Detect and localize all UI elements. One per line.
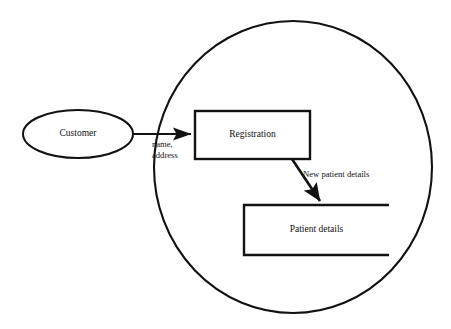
flow-customer-to-registration-label-line1: name,	[152, 139, 173, 149]
flow-registration-to-patient-details	[292, 159, 320, 201]
dfd-canvas: Customer Registration Patient details na…	[0, 0, 451, 329]
external-entity-customer-label: Customer	[60, 128, 98, 138]
data-store-patient-details-label: Patient details	[290, 224, 344, 234]
flow-customer-to-registration-label-line2: address	[152, 150, 178, 160]
process-registration-label: Registration	[229, 129, 276, 139]
flow-registration-to-patient-details-label: New patient details	[303, 169, 370, 179]
dfd-svg: Customer Registration Patient details na…	[0, 0, 451, 329]
system-boundary-ellipse	[154, 21, 432, 313]
